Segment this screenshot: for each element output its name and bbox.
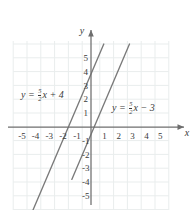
y-axis-label: y (79, 25, 85, 36)
y-tick-neg4: -4 (82, 177, 90, 187)
equation-label-left: y = 5 2 x + 4 (21, 88, 64, 103)
y-tick-4: 4 (84, 67, 89, 77)
x-tick-neg2: -2 (59, 131, 67, 141)
eq-right-numerator: 5 (129, 101, 132, 108)
x-tick-neg3: -3 (46, 131, 54, 141)
x-tick-3: 3 (130, 131, 135, 141)
y-tick-2: 2 (84, 94, 89, 104)
eq-left-lhs: y (21, 89, 25, 100)
eq-right-lhs: y (112, 102, 116, 113)
x-tick-2: 2 (117, 131, 122, 141)
eq-left-operator: + (49, 89, 56, 100)
y-tick-1: 1 (84, 108, 89, 118)
eq-left-denominator: 2 (38, 95, 41, 103)
eq-left-equals: = (28, 89, 35, 100)
y-tick-3: 3 (84, 81, 89, 91)
x-tick-4: 4 (144, 131, 149, 141)
equation-label-right: y = 5 2 x − 3 (112, 101, 155, 116)
eq-right-operator: − (140, 102, 147, 113)
eq-right-constant: 3 (150, 102, 155, 113)
eq-left-numerator: 5 (38, 88, 41, 95)
x-tick-neg1: -1 (73, 131, 81, 141)
y-tick-neg3: -3 (82, 163, 90, 173)
x-tick-neg4: -4 (32, 131, 40, 141)
coordinate-plane: -5 -4 -3 -2 -1 1 2 3 4 5 5 4 3 2 1 -1 -2… (0, 0, 195, 210)
y-tick-neg2: -2 (82, 150, 90, 160)
eq-left-fraction: 5 2 (38, 88, 41, 103)
eq-right-variable: x (133, 102, 137, 113)
axes (8, 30, 184, 205)
x-tick-neg5: -5 (18, 131, 26, 141)
graph-figure: -5 -4 -3 -2 -1 1 2 3 4 5 5 4 3 2 1 -1 -2… (0, 0, 195, 210)
x-tick-5: 5 (158, 131, 163, 141)
eq-right-equals: = (119, 102, 126, 113)
x-axis-label: x (184, 127, 190, 138)
y-tick-neg1: -1 (82, 136, 90, 146)
y-tick-5: 5 (84, 53, 89, 63)
y-tick-neg5: -5 (82, 191, 90, 201)
x-axis-arrow (178, 124, 185, 130)
x-tick-1: 1 (102, 131, 107, 141)
eq-left-variable: x (42, 89, 46, 100)
eq-right-denominator: 2 (129, 108, 132, 116)
eq-left-constant: 4 (59, 89, 64, 100)
y-axis-arrow (88, 30, 94, 37)
eq-right-fraction: 5 2 (129, 101, 132, 116)
